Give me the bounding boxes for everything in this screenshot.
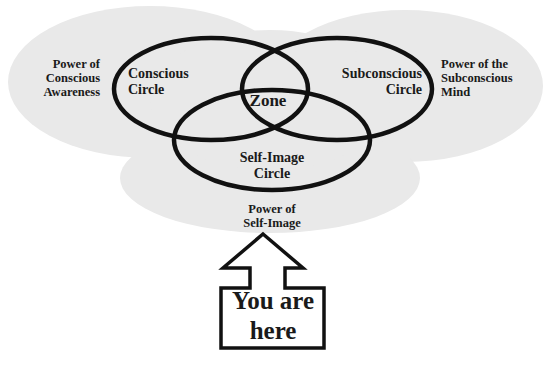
label-power-conscious-awareness: Power of Conscious Awareness <box>20 57 100 99</box>
label-subconscious-circle: Subconscious Circle <box>318 66 422 97</box>
label-zone: Zone <box>238 91 298 110</box>
background-blobs <box>8 6 543 233</box>
label-you-are-here: You are here <box>221 286 325 346</box>
label-conscious-circle: Conscious Circle <box>128 66 189 97</box>
label-power-subconscious-mind: Power of the Subconscious Mind <box>441 57 513 99</box>
label-power-self-image: Power of Self-Image <box>222 202 322 230</box>
label-self-image-circle: Self-Image Circle <box>222 150 322 181</box>
